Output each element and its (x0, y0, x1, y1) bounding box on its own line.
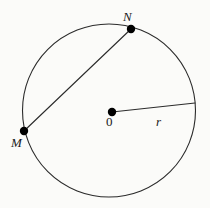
radius-line (112, 103, 195, 112)
point-n-label: N (123, 10, 132, 23)
point-n-dot (127, 25, 135, 33)
point-m-label: M (11, 136, 22, 149)
radius-label: r (156, 115, 161, 128)
chord-mn-line (24, 29, 131, 131)
point-m-dot (20, 127, 28, 135)
circle-geometry-figure: N M 0 r (0, 0, 210, 208)
figure-canvas (0, 0, 210, 208)
center-label: 0 (106, 115, 113, 128)
